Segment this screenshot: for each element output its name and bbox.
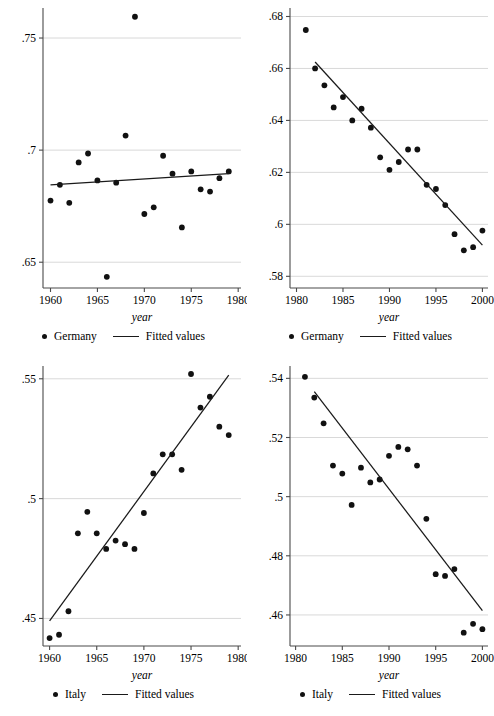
- x-tick-label: 1980: [284, 652, 307, 664]
- data-point: [122, 541, 128, 547]
- data-point: [217, 175, 223, 181]
- data-point: [170, 171, 176, 177]
- legend-label-fit: Fitted values: [146, 330, 205, 342]
- four-panel-scatter-figure: .65.7.7519601965197019751980year Germany…: [0, 0, 494, 716]
- legend-label-series: Italy: [65, 688, 86, 700]
- data-point: [198, 405, 204, 411]
- data-point: [387, 167, 393, 173]
- data-point: [405, 446, 411, 452]
- data-point: [452, 231, 458, 237]
- scatter-dot-marker-icon: [42, 334, 47, 339]
- data-point: [303, 27, 309, 33]
- data-point: [349, 118, 355, 124]
- x-tick-label: 1975: [180, 652, 203, 664]
- data-point: [179, 467, 185, 473]
- data-point: [226, 432, 232, 438]
- panel-germany-1981-2000: .58.6.62.64.66.6819801985199019952000yea…: [247, 0, 494, 358]
- data-point: [123, 133, 129, 139]
- data-point: [94, 530, 100, 536]
- data-point: [423, 516, 429, 522]
- data-point: [321, 420, 327, 426]
- x-axis-title: year: [131, 311, 153, 324]
- legend-entry-series: Italy: [300, 688, 333, 700]
- legend-germany-1981-2000: Germany Fitted values: [247, 330, 494, 342]
- data-point: [480, 228, 486, 234]
- data-point: [66, 608, 72, 614]
- x-tick-label: 1995: [424, 294, 447, 306]
- data-point: [216, 424, 222, 430]
- y-tick-label: .64: [269, 114, 284, 126]
- x-tick-label: 1990: [378, 294, 401, 306]
- legend-entry-series: Germany: [42, 330, 97, 342]
- legend-label-series: Italy: [312, 688, 333, 700]
- data-point: [433, 186, 439, 192]
- data-point: [132, 14, 138, 20]
- legend-entry-series: Germany: [289, 330, 344, 342]
- x-tick-label: 2000: [471, 294, 494, 306]
- plot-area-italy-1960-1979: .45.5.5519601965197019751980year: [0, 358, 247, 684]
- y-tick-label: .65: [22, 256, 37, 268]
- legend-italy-1981-2000: Italy Fitted values: [247, 688, 494, 700]
- y-tick-label: .54: [269, 372, 284, 384]
- data-point: [386, 453, 392, 459]
- data-point: [358, 465, 364, 471]
- legend-entry-fit: Fitted values: [360, 330, 452, 342]
- data-point: [76, 160, 82, 166]
- data-point: [207, 189, 213, 195]
- x-tick-label: 1995: [424, 652, 447, 664]
- y-tick-label: .55: [22, 373, 37, 385]
- scatter-dot-marker-icon: [53, 692, 58, 697]
- data-point: [104, 274, 110, 280]
- data-point: [84, 509, 90, 515]
- panel-italy-1960-1979: .45.5.5519601965197019751980year Italy F…: [0, 358, 247, 716]
- x-axis-title: year: [131, 669, 153, 682]
- scatter-dot-marker-icon: [289, 334, 294, 339]
- y-tick-label: .66: [269, 62, 284, 74]
- x-tick-label: 1980: [285, 294, 308, 306]
- legend-entry-fit: Fitted values: [113, 330, 205, 342]
- scatter-dot-marker-icon: [300, 692, 305, 697]
- y-tick-label: .68: [269, 10, 284, 22]
- data-point: [113, 538, 119, 544]
- plot-area-germany-1960-1979: .65.7.7519601965197019751980year: [0, 0, 247, 326]
- data-point: [56, 632, 62, 638]
- y-tick-label: .6: [274, 218, 283, 230]
- y-tick-label: .75: [22, 32, 37, 44]
- y-tick-label: .52: [269, 432, 284, 444]
- x-axis-title: year: [378, 311, 400, 324]
- x-tick-label: 1975: [180, 294, 203, 306]
- fitted-line-marker-icon: [102, 694, 128, 695]
- x-tick-label: 1980: [227, 652, 247, 664]
- data-point: [349, 502, 355, 508]
- data-point: [433, 571, 439, 577]
- legend-label-fit: Fitted values: [382, 688, 441, 700]
- legend-entry-fit: Fitted values: [102, 688, 194, 700]
- legend-italy-1960-1979: Italy Fitted values: [0, 688, 247, 700]
- data-point: [470, 244, 476, 250]
- data-point: [339, 471, 345, 477]
- x-tick-label: 1965: [86, 294, 109, 306]
- data-point: [367, 480, 373, 486]
- data-point: [461, 247, 467, 253]
- y-tick-label: .46: [269, 609, 284, 621]
- x-tick-label: 2000: [471, 652, 494, 664]
- y-tick-label: .62: [269, 166, 284, 178]
- data-point: [48, 198, 54, 204]
- data-point: [198, 186, 204, 192]
- data-point: [47, 635, 53, 641]
- y-tick-label: .5: [274, 491, 283, 503]
- x-tick-label: 1985: [331, 294, 354, 306]
- legend-entry-series: Italy: [53, 688, 86, 700]
- data-point: [461, 630, 467, 636]
- x-tick-label: 1970: [133, 294, 156, 306]
- y-tick-label: .58: [269, 270, 284, 282]
- x-tick-label: 1960: [39, 294, 62, 306]
- data-point: [377, 154, 383, 160]
- panel-germany-1960-1979: .65.7.7519601965197019751980year Germany…: [0, 0, 247, 358]
- x-tick-label: 1965: [85, 652, 108, 664]
- data-point: [312, 66, 318, 72]
- fitted-line-marker-icon: [113, 336, 139, 337]
- data-point: [442, 573, 448, 579]
- fitted-values-line: [315, 62, 482, 245]
- y-tick-label: .5: [27, 493, 36, 505]
